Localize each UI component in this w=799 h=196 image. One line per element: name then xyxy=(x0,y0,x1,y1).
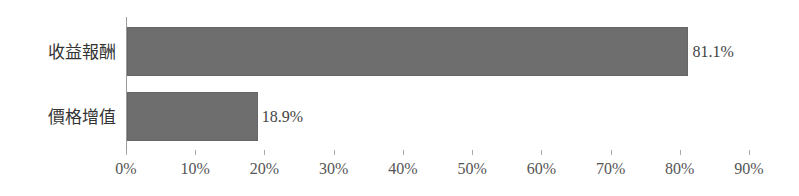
x-tick xyxy=(749,150,750,155)
value-label: 18.9% xyxy=(262,107,303,127)
x-tick-label: 80% xyxy=(650,159,710,179)
x-tick-label: 30% xyxy=(304,159,364,179)
x-tick-label: 90% xyxy=(719,159,779,179)
x-tick-label: 60% xyxy=(511,159,571,179)
bar xyxy=(127,27,688,76)
x-tick xyxy=(403,150,404,155)
x-tick xyxy=(334,150,335,155)
x-tick xyxy=(195,150,196,155)
x-tick xyxy=(126,150,127,155)
category-label: 價格增值 xyxy=(48,107,116,127)
category-label: 收益報酬 xyxy=(48,42,116,62)
x-tick xyxy=(541,150,542,155)
x-tick-label: 50% xyxy=(442,159,502,179)
x-tick-label: 70% xyxy=(581,159,641,179)
x-tick xyxy=(611,150,612,155)
x-tick-label: 40% xyxy=(373,159,433,179)
value-label: 81.1% xyxy=(692,42,733,62)
x-tick xyxy=(472,150,473,155)
x-tick-label: 0% xyxy=(96,159,156,179)
x-tick xyxy=(680,150,681,155)
x-tick-label: 10% xyxy=(165,159,225,179)
x-tick-label: 20% xyxy=(234,159,294,179)
horizontal-bar-chart: 收益報酬81.1%價格增值18.9% 0%10%20%30%40%50%60%7… xyxy=(0,0,799,196)
bar xyxy=(127,92,258,141)
x-tick xyxy=(264,150,265,155)
